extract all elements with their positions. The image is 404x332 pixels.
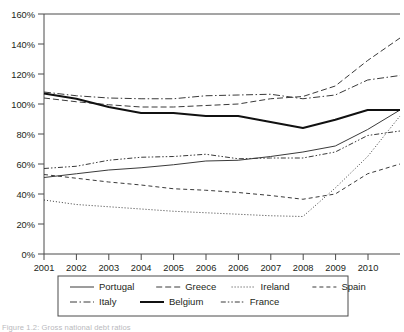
x-tick-label: 2005 [163,263,184,273]
y-tick-label: 140% [11,40,35,50]
x-tick-label: 2001 [34,263,55,273]
series-line-belgium [44,94,400,129]
legend-label-france: France [250,296,280,307]
x-tick-label: 2010 [358,263,379,273]
y-tick-label: 60% [16,160,35,170]
series-layer [44,38,400,217]
legend-label-belgium: Belgium [169,296,203,307]
legend-label-greece: Greece [185,281,216,292]
y-tick-label: 100% [11,100,35,110]
figure-caption: Figure 1.2: Gross national debt ratios [2,323,131,332]
series-line-portugal [44,110,400,178]
series-line-spain [44,164,400,199]
series-line-ireland [44,116,400,217]
x-tick-label: 2007 [260,263,281,273]
y-tick-label: 160% [11,10,35,20]
legend: PortugalGreeceIrelandSpainItalyBelgiumFr… [70,281,366,307]
x-tick-label: 2004 [131,263,152,273]
series-line-greece [44,38,400,107]
legend-label-spain: Spain [341,281,365,292]
x-axis-labels: 2001 2002 2003 2004 2005 2006 2006 2007 … [34,263,379,273]
y-tick-label: 120% [11,70,35,80]
figure-container: 160% 140% 120% 100% 80% 60% 40% 20% 0% [0,0,404,332]
y-axis-labels: 160% 140% 120% 100% 80% 60% 40% 20% 0% [11,10,35,260]
line-chart: 160% 140% 120% 100% 80% 60% 40% 20% 0% [0,0,404,332]
x-axis-ticks [44,254,368,260]
x-tick-label: 2002 [66,263,87,273]
y-axis-ticks [38,14,44,254]
x-tick-label: 2006 [196,263,217,273]
x-tick-label: 2009 [325,263,346,273]
x-tick-label: 2008 [293,263,314,273]
legend-label-ireland: Ireland [261,281,290,292]
y-tick-label: 40% [16,190,35,200]
series-line-italy [44,76,400,99]
legend-label-portugal: Portugal [99,281,134,292]
x-tick-label: 2003 [98,263,119,273]
y-tick-label: 80% [16,130,35,140]
y-tick-label: 20% [16,220,35,230]
legend-label-italy: Italy [99,296,117,307]
x-tick-label: 2006 [228,263,249,273]
series-line-france [44,131,400,169]
y-tick-label: 0% [22,250,35,260]
